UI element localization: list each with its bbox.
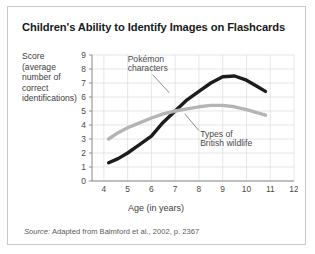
figure-container: Children's Ability to Identify Images on…: [7, 6, 306, 245]
y-axis-caption: Score (average number of correct identif…: [22, 51, 74, 104]
source-note: Source: Adapted from Balmford et al., 20…: [24, 227, 199, 236]
svg-text:3: 3: [81, 134, 86, 144]
line-chart-svg: 0123456789 456789101112 Pokémoncharacter…: [70, 49, 298, 201]
svg-text:4: 4: [102, 184, 107, 194]
svg-text:0: 0: [81, 176, 86, 186]
svg-text:8: 8: [81, 64, 86, 74]
svg-text:6: 6: [149, 184, 154, 194]
chart-title: Children's Ability to Identify Images on…: [22, 21, 297, 34]
svg-text:7: 7: [81, 78, 86, 88]
data-series-group: [109, 76, 266, 163]
svg-text:7: 7: [173, 184, 178, 194]
x-axis-label: Age (in years): [128, 203, 184, 213]
svg-text:6: 6: [81, 92, 86, 102]
svg-text:5: 5: [81, 106, 86, 116]
source-prefix: Source:: [24, 227, 50, 236]
source-citation: Adapted from Balmford et al., 2002, p. 2…: [52, 227, 199, 236]
svg-text:5: 5: [125, 184, 130, 194]
svg-text:characters: characters: [128, 63, 168, 73]
gridlines: [92, 55, 294, 181]
svg-text:2: 2: [81, 148, 86, 158]
plot-area: 0123456789 456789101112 Pokémoncharacter…: [70, 49, 298, 201]
svg-text:10: 10: [242, 184, 252, 194]
svg-text:12: 12: [289, 184, 298, 194]
svg-text:1: 1: [81, 162, 86, 172]
svg-text:4: 4: [81, 120, 86, 130]
y-axis-ticks: 0123456789: [81, 50, 92, 186]
x-axis-ticks: 456789101112: [102, 184, 298, 194]
svg-text:9: 9: [220, 184, 225, 194]
svg-text:8: 8: [197, 184, 202, 194]
series-annotations: PokémoncharactersTypes ofBritish wildlif…: [128, 54, 253, 148]
svg-text:11: 11: [266, 184, 275, 194]
svg-text:9: 9: [81, 50, 86, 60]
svg-text:British wildlife: British wildlife: [200, 138, 252, 148]
